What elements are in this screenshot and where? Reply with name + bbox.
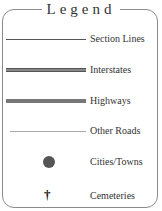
legend-item-section-lines: Section Lines xyxy=(0,33,162,47)
city-dot-icon xyxy=(43,156,55,168)
section-line-icon xyxy=(6,39,86,40)
legend-label: Highways xyxy=(90,95,131,107)
cemetery-cross-icon: † xyxy=(44,188,51,202)
legend-label: Interstates xyxy=(90,64,131,76)
legend-item-cities: Cities/Towns xyxy=(0,156,162,170)
legend-item-other-roads: Other Roads xyxy=(0,125,162,139)
highway-line-icon xyxy=(6,99,86,103)
legend-item-interstates: Interstates xyxy=(0,64,162,78)
legend-label: Section Lines xyxy=(90,33,145,45)
legend-label: Cemeteries xyxy=(90,190,135,202)
legend-title: Legend xyxy=(0,0,162,18)
other-road-line-icon xyxy=(10,131,86,132)
legend-item-highways: Highways xyxy=(0,95,162,109)
legend-label: Cities/Towns xyxy=(90,156,143,168)
interstate-line-icon xyxy=(6,68,86,72)
legend-item-cemeteries: † Cemeteries xyxy=(0,190,162,204)
legend-title-text: Legend xyxy=(42,1,121,17)
legend-label: Other Roads xyxy=(90,125,140,137)
